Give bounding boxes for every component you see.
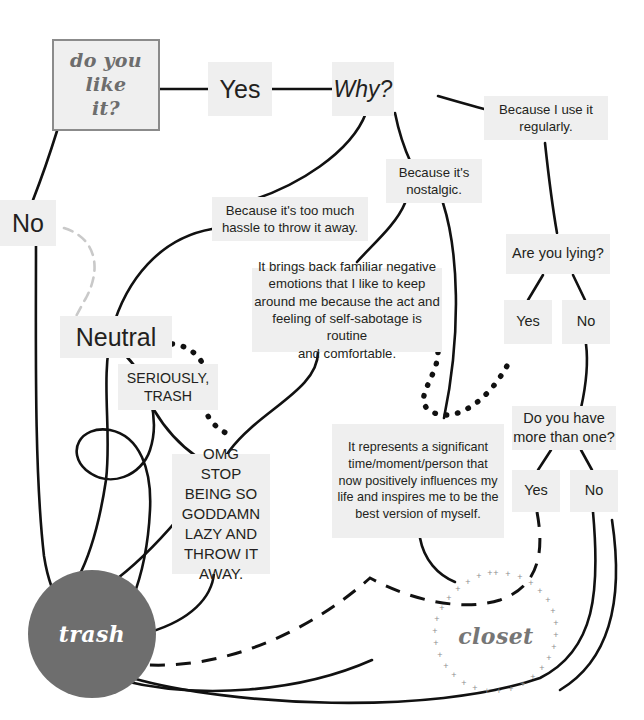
edge-trash-swirl-1: [120, 660, 372, 691]
edge-lying-to-yes: [528, 275, 543, 300]
edge-nostalgic-to-represents: [443, 203, 456, 418]
node-represents-significant[interactable]: It represents a significant time/moment/…: [332, 424, 504, 538]
edge-no-to-trash: [36, 243, 64, 612]
edge-regularly-to-lying: [545, 143, 557, 233]
edge-right-outer-sweep: [560, 520, 616, 690]
node-seriously-trash[interactable]: SERIOUSLY, TRASH: [118, 364, 218, 410]
node-because-i-use-it-regularly[interactable]: Because I use it regularly.: [484, 96, 608, 140]
node-neutral[interactable]: Neutral: [60, 316, 172, 358]
node-because-its-too-much-hassle[interactable]: Because it's too much hassle to throw it…: [212, 197, 368, 241]
node-no[interactable]: No: [0, 200, 56, 246]
terminal-closet[interactable]: closet: [430, 570, 562, 702]
edge-lyingno-to-morethanone: [581, 344, 587, 408]
node-omg-stop-throw-it-away[interactable]: OMG STOP BEING SO GODDAMN LAZY AND THROW…: [172, 454, 270, 574]
node-yes[interactable]: Yes: [208, 62, 272, 116]
edge-more-to-no: [581, 450, 592, 470]
node-more-no[interactable]: No: [570, 470, 618, 512]
edge-start-to-no: [33, 131, 57, 200]
node-are-you-lying[interactable]: Are you lying?: [506, 234, 610, 274]
node-more-yes[interactable]: Yes: [512, 470, 560, 512]
edge-why-to-nostalgic: [395, 113, 411, 163]
node-because-its-nostalgic[interactable]: Because it's nostalgic.: [386, 159, 482, 203]
terminal-trash[interactable]: trash: [28, 570, 156, 698]
flowchart-canvas: do you like it? Yes Why? No Neutral Beca…: [0, 0, 644, 720]
edge-represents-to-closet: [420, 538, 455, 582]
edge-lying-to-no: [573, 275, 585, 300]
edge-more-to-yes: [538, 450, 551, 470]
node-why[interactable]: Why?: [332, 62, 394, 116]
node-lying-no[interactable]: No: [562, 300, 610, 344]
node-start[interactable]: do you like it?: [52, 39, 160, 131]
node-do-you-have-more-than-one[interactable]: Do you have more than one?: [512, 406, 616, 450]
edge-why-to-hassle: [236, 113, 366, 205]
node-lying-yes[interactable]: Yes: [504, 300, 552, 344]
node-negative-emotions[interactable]: It brings back familiar negative emotion…: [252, 268, 442, 352]
